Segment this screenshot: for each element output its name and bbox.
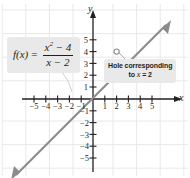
y-tick-label-5: 5 — [79, 35, 88, 45]
y-tick-label-4: 4 — [79, 47, 88, 57]
x-tick-label--4: −4 — [40, 101, 52, 111]
x-tick-label--5: −5 — [28, 101, 40, 111]
x-tick-label-2: 2 — [113, 101, 121, 111]
graph-figure: −5 −4 −3 −2 −1 1 2 3 4 5 5 4 3 2 1 −1 −2… — [0, 0, 190, 178]
hole-callout-equals: = — [140, 71, 148, 78]
x-tick-label--3: −3 — [52, 101, 64, 111]
x-tick-label-5: 5 — [148, 101, 156, 111]
y-tick-label--2: −2 — [76, 118, 89, 128]
y-tick-label--1: −1 — [76, 106, 89, 116]
y-tick-label--4: −4 — [76, 141, 89, 151]
x-tick-label--2: −2 — [63, 101, 75, 111]
hole-callout-value: 2 — [148, 71, 152, 78]
hole-callout: Hole corresponding to x = 2 — [104, 59, 176, 83]
formula-equals: = — [31, 49, 37, 61]
formula-leader-line — [62, 72, 72, 92]
formula-numerator: x2 − 4 — [41, 41, 74, 55]
hole-callout-line1: Hole corresponding — [108, 62, 172, 70]
function-formula: f(x) = x2 − 4 x − 2 — [13, 41, 74, 68]
hole-callout-line2: to x = 2 — [108, 71, 172, 80]
y-tick-label-3: 3 — [79, 59, 88, 69]
formula-denominator: x − 2 — [43, 55, 72, 69]
formula-fx: f(x) — [13, 49, 28, 61]
y-tick-label-1: 1 — [79, 82, 88, 92]
formula-fraction: x2 − 4 x − 2 — [41, 41, 74, 68]
y-tick-label--3: −3 — [76, 130, 89, 140]
x-tick-label-3: 3 — [124, 101, 132, 111]
y-axis-label: y — [88, 3, 92, 14]
coordinate-plane — [0, 0, 190, 178]
formula-callout: f(x) = x2 − 4 x − 2 — [7, 37, 80, 73]
hole-callout-prefix: to — [129, 71, 137, 78]
numerator-rest: − 4 — [53, 41, 71, 53]
line-arrow-upper-right — [162, 20, 171, 34]
x-tick-label-1: 1 — [101, 101, 109, 111]
y-tick-label--5: −5 — [76, 153, 89, 163]
x-tick-label-4: 4 — [136, 101, 144, 111]
x-axis-label: x — [179, 92, 183, 103]
hole-point-open-circle — [114, 49, 119, 54]
y-tick-label-2: 2 — [79, 70, 88, 80]
